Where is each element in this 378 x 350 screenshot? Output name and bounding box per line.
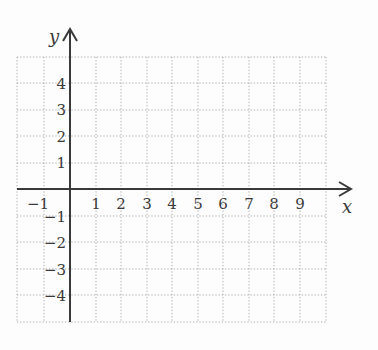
x-tick-label: 5 [193, 195, 203, 213]
y-tick-label: −2 [44, 234, 66, 252]
x-tick-label: 2 [116, 195, 126, 213]
y-tick-label: 3 [56, 101, 66, 119]
x-tick-labels: −1 1 2 3 4 5 6 7 8 9 [27, 195, 305, 213]
x-axis [17, 182, 351, 196]
y-axis-label: y [48, 26, 60, 47]
y-tick-label: −1 [44, 208, 66, 226]
coordinate-grid: x y −1 1 2 3 4 5 6 7 8 9 4 3 2 1 −1 −2 −… [0, 0, 378, 350]
x-tick-label: 7 [244, 195, 254, 213]
y-tick-label: 1 [56, 154, 66, 172]
x-tick-label: 8 [269, 195, 279, 213]
x-tick-label: 9 [295, 195, 305, 213]
y-tick-label: 4 [56, 75, 66, 93]
x-tick-label: 6 [218, 195, 228, 213]
y-tick-label: −3 [44, 261, 66, 279]
x-tick-label: 3 [142, 195, 152, 213]
x-tick-label: 1 [91, 195, 101, 213]
y-tick-label: −4 [44, 287, 66, 305]
x-tick-label: 4 [167, 195, 177, 213]
x-axis-label: x [342, 196, 352, 217]
y-tick-label: 2 [56, 128, 66, 146]
